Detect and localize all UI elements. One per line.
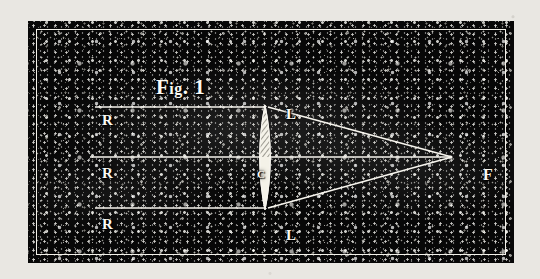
caption-prefix: F [156,75,169,99]
label-ray-top: R [102,113,113,128]
label-ray-bottom: R [102,217,113,232]
page-background: Fig. 1 R R R L L C F [0,0,540,279]
label-focal-point: F [483,167,493,183]
engraved-plate: Fig. 1 R R R L L C F [28,21,514,263]
refracted-ray-bottom [268,157,452,208]
label-lens-top: L [286,107,296,122]
refracted-rays [268,107,452,208]
figure-caption: Fig. 1 [156,77,205,98]
label-ray-middle: R [102,166,113,181]
caption-small-caps: ig [169,80,182,97]
incident-rays [90,107,266,208]
label-lens-bottom: L [286,228,296,243]
biconvex-lens [260,105,271,210]
caption-suffix: . 1 [183,75,206,99]
ray-diagram [28,21,514,263]
label-lens-center: C [257,169,265,180]
